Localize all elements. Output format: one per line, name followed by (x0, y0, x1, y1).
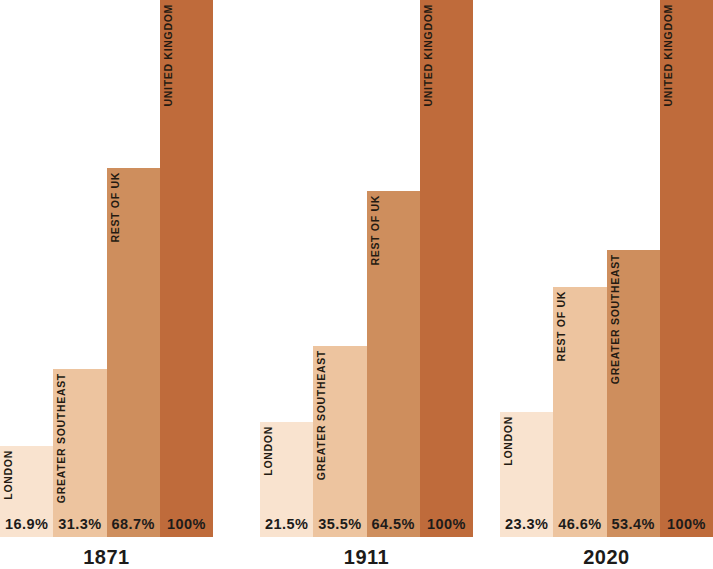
bar-series-label: UNITED KINGDOM (423, 4, 434, 107)
bar-value-label: 64.5% (367, 517, 420, 532)
bar-group-2020: LONDON23.3%REST OF UK46.6%GREATER SOUTHE… (500, 0, 713, 569)
bar-value-label: 21.5% (260, 517, 313, 532)
bar-series-label: LONDON (503, 416, 514, 466)
group-year-label: 1911 (260, 547, 473, 567)
bar-value-label: 100% (420, 517, 473, 532)
bar: REST OF UK68.7% (107, 168, 160, 537)
bar-series-label: LONDON (3, 450, 14, 500)
bar-series-label: UNITED KINGDOM (663, 4, 674, 107)
bar: GREATER SOUTHEAST53.4% (607, 250, 660, 537)
bar-series-label: GREATER SOUTHEAST (56, 373, 67, 503)
bar-value-label: 46.6% (553, 517, 606, 532)
group-year-label: 2020 (500, 547, 713, 567)
bar-value-label: 16.9% (0, 517, 53, 532)
bar-value-label: 100% (660, 517, 713, 532)
bar-value-label: 68.7% (107, 517, 160, 532)
bar: REST OF UK64.5% (367, 191, 420, 537)
bar-series-label: UNITED KINGDOM (163, 4, 174, 107)
bar: GREATER SOUTHEAST31.3% (53, 369, 106, 537)
bar-group-1871: LONDON16.9%GREATER SOUTHEAST31.3%REST OF… (0, 0, 213, 569)
bar-value-label: 35.5% (313, 517, 366, 532)
bar-series-label: GREATER SOUTHEAST (316, 350, 327, 480)
bars-area: LONDON21.5%GREATER SOUTHEAST35.5%REST OF… (260, 0, 473, 537)
bar-group-1911: LONDON21.5%GREATER SOUTHEAST35.5%REST OF… (260, 0, 473, 569)
group-year-label: 1871 (0, 547, 213, 567)
bar: LONDON16.9% (0, 446, 53, 537)
bar-value-label: 23.3% (500, 517, 553, 532)
bar-value-label: 100% (160, 517, 213, 532)
bar-series-label: REST OF UK (556, 291, 567, 362)
bar: UNITED KINGDOM100% (420, 0, 473, 537)
bar-series-label: REST OF UK (370, 195, 381, 266)
bar-series-label: GREATER SOUTHEAST (610, 254, 621, 384)
bar-series-label: LONDON (263, 426, 274, 476)
bar: GREATER SOUTHEAST35.5% (313, 346, 366, 537)
bar-value-label: 53.4% (607, 517, 660, 532)
bar-series-label: REST OF UK (110, 172, 121, 243)
bars-area: LONDON23.3%REST OF UK46.6%GREATER SOUTHE… (500, 0, 713, 537)
bar: UNITED KINGDOM100% (660, 0, 713, 537)
bars-area: LONDON16.9%GREATER SOUTHEAST31.3%REST OF… (0, 0, 213, 537)
bar-value-label: 31.3% (53, 517, 106, 532)
bar: LONDON23.3% (500, 412, 553, 537)
grouped-bar-chart: LONDON16.9%GREATER SOUTHEAST31.3%REST OF… (0, 0, 713, 569)
bar: UNITED KINGDOM100% (160, 0, 213, 537)
bar: LONDON21.5% (260, 422, 313, 537)
bar: REST OF UK46.6% (553, 287, 606, 537)
